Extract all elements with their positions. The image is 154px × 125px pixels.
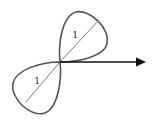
- arrowhead-icon: [136, 58, 146, 67]
- lower-diameter-label: 1: [34, 75, 40, 86]
- petal-diagram: 1 1: [0, 0, 154, 125]
- upper-diameter-line: [60, 22, 97, 62]
- upper-diameter-label: 1: [72, 29, 78, 40]
